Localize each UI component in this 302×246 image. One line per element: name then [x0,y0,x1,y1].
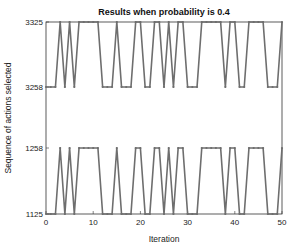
data-point-marker [257,21,259,23]
data-point-marker [177,147,179,149]
data-point-marker [238,86,240,88]
data-point-marker [59,147,61,149]
data-point-marker [78,21,80,23]
data-point-marker [205,21,207,23]
data-point-marker [281,147,283,149]
x-tick-label: 20 [136,218,145,227]
data-point-marker [187,213,189,215]
series-line [46,22,282,87]
data-point-marker [262,147,264,149]
data-point-marker [229,21,231,23]
data-point-marker [163,86,165,88]
data-point-marker [153,21,155,23]
data-point-marker [248,21,250,23]
y-tick-label: 3325 [25,18,43,27]
data-point-marker [205,147,207,149]
data-point-marker [50,213,52,215]
data-point-marker [196,213,198,215]
data-point-marker [73,86,75,88]
data-point-marker [271,86,273,88]
data-point-marker [243,86,245,88]
x-tick-label: 10 [89,218,98,227]
data-point-marker [111,86,113,88]
data-point-marker [92,21,94,23]
data-point-marker [92,147,94,149]
data-point-marker [106,86,108,88]
data-point-marker [248,147,250,149]
data-point-marker [182,21,184,23]
data-point-marker [139,147,141,149]
data-point-marker [191,213,193,215]
data-point-marker [83,147,85,149]
y-axis-ticks: 1125125832583325 [25,18,49,219]
data-point-marker [135,21,137,23]
data-point-marker [69,21,71,23]
data-point-marker [187,86,189,88]
x-axis-label: Iteration [149,234,180,244]
data-point-marker [253,147,255,149]
series-line [46,148,282,214]
data-point-marker [281,21,283,23]
data-point-marker [177,21,179,23]
data-point-marker [144,86,146,88]
data-series [45,21,283,215]
data-point-marker [69,147,71,149]
data-point-marker [116,147,118,149]
data-point-marker [267,213,269,215]
data-point-marker [271,213,273,215]
data-point-marker [191,86,193,88]
data-point-marker [139,21,141,23]
data-point-marker [163,213,165,215]
data-point-marker [172,213,174,215]
data-point-marker [234,147,236,149]
data-point-marker [182,147,184,149]
data-point-marker [215,21,217,23]
data-point-marker [210,147,212,149]
data-point-marker [149,86,151,88]
data-point-marker [45,213,47,215]
data-point-marker [158,21,160,23]
data-point-marker [220,147,222,149]
y-tick-label: 1258 [25,144,43,153]
y-axis-label: Sequence of actions selected [3,62,13,173]
line-chart: Results when probability is 0.4 11251258… [0,0,302,246]
data-point-marker [54,213,56,215]
data-point-marker [97,147,99,149]
data-point-marker [125,213,127,215]
y-tick-label: 3258 [25,83,43,92]
data-point-marker [97,21,99,23]
data-point-marker [54,86,56,88]
data-point-marker [158,147,160,149]
data-point-marker [120,213,122,215]
x-tick-label: 40 [230,218,239,227]
chart-title: Results when probability is 0.4 [98,7,230,17]
data-point-marker [135,147,137,149]
data-point-marker [102,213,104,215]
data-point-marker [50,86,52,88]
data-point-marker [130,213,132,215]
data-point-marker [149,213,151,215]
data-point-marker [234,21,236,23]
data-point-marker [144,213,146,215]
data-point-marker [83,21,85,23]
data-point-marker [243,213,245,215]
data-point-marker [130,86,132,88]
data-point-marker [125,86,127,88]
data-point-marker [168,21,170,23]
x-tick-label: 30 [183,218,192,227]
x-axis-ticks: 01020304050 [44,211,287,227]
data-point-marker [64,86,66,88]
data-point-marker [201,21,203,23]
data-point-marker [210,21,212,23]
data-point-marker [153,147,155,149]
y-tick-label: 1125 [26,210,44,219]
data-point-marker [172,86,174,88]
data-point-marker [224,86,226,88]
data-point-marker [215,147,217,149]
data-point-marker [257,147,259,149]
data-point-marker [106,213,108,215]
data-point-marker [224,213,226,215]
data-point-marker [262,21,264,23]
data-point-marker [238,213,240,215]
data-point-marker [73,213,75,215]
